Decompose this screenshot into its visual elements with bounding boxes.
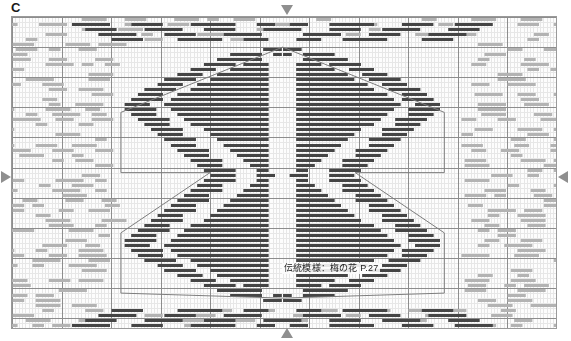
page-title: C [11, 1, 21, 15]
guide-outline-layer [12, 17, 556, 328]
sashiko-chart-page: C 伝統模様：梅の花 P.27 [0, 0, 571, 341]
pattern-caption: 伝統模様：梅の花 P.27 [282, 263, 380, 274]
pattern-chart[interactable] [11, 16, 557, 329]
